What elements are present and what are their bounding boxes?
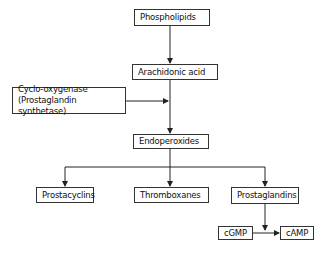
- node-label-line2: (Prostaglandin synthetase): [18, 95, 125, 117]
- node-endoperoxides: Endoperoxides: [133, 134, 209, 149]
- node-label: cAMP: [286, 228, 308, 239]
- node-label: Thromboxanes: [140, 190, 201, 201]
- node-label: Prostaglandins: [237, 190, 297, 201]
- node-prostaglandins: Prostaglandins: [231, 187, 299, 204]
- node-phospholipids: Phospholipids: [134, 9, 210, 26]
- node-thromboxanes: Thromboxanes: [134, 187, 209, 203]
- node-label: Phospholipids: [140, 12, 196, 23]
- node-label: Arachidonic acid: [138, 67, 205, 78]
- node-label: Endoperoxides: [139, 136, 199, 147]
- connector-layer: [0, 0, 323, 254]
- node-cgmp: cGMP: [218, 226, 253, 240]
- node-cyclooxygenase: Cyclo-oxygenase (Prostaglandin synthetas…: [12, 87, 126, 114]
- node-prostacyclins: Prostacyclins: [36, 187, 94, 203]
- node-arachidonic-acid: Arachidonic acid: [132, 64, 218, 80]
- node-label: cGMP: [224, 228, 247, 239]
- node-label: Prostacyclins: [42, 190, 95, 201]
- node-label-line1: Cyclo-oxygenase: [18, 84, 87, 95]
- node-camp: cAMP: [280, 226, 314, 240]
